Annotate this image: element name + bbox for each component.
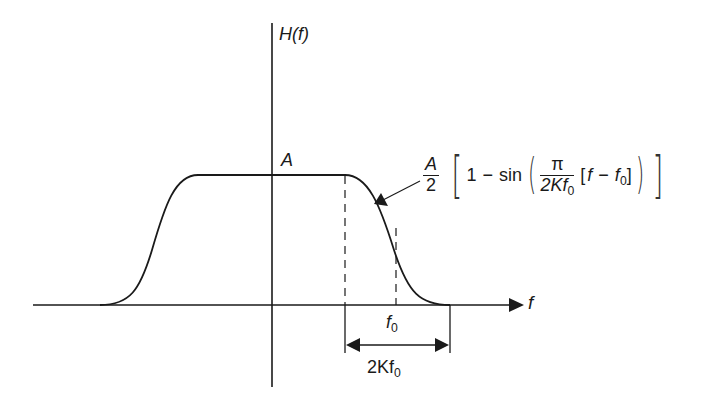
coef-denominator: 2 bbox=[423, 176, 439, 196]
formula-f0: f0 bbox=[615, 165, 627, 186]
formula-coefficient: A 2 bbox=[423, 155, 439, 196]
pi-numerator: π bbox=[540, 155, 574, 176]
formula-minus2: − bbox=[598, 165, 609, 186]
inner-bracket-open: [ bbox=[580, 165, 585, 186]
plateau-label-A: A bbox=[281, 150, 293, 171]
pi-denominator: 2Kf0 bbox=[540, 176, 574, 196]
paren-open: ( bbox=[528, 154, 536, 196]
spectrum-curve bbox=[100, 175, 450, 305]
formula-sin: sin bbox=[499, 165, 522, 186]
formula-one: 1 bbox=[467, 165, 477, 186]
outer-bracket-open: [ bbox=[451, 150, 462, 200]
bracket-right-arrow-icon bbox=[435, 338, 449, 352]
x-axis-arrow-icon bbox=[509, 298, 524, 312]
coef-numerator: A bbox=[423, 155, 439, 176]
spectrum-diagram bbox=[0, 0, 717, 403]
x-axis-label: f bbox=[528, 292, 533, 314]
rolloff-formula: A 2 [ 1 − sin ( π 2Kf0 [ f − f0 ] ) ] bbox=[423, 150, 668, 200]
formula-pi-fraction: π 2Kf0 bbox=[540, 155, 574, 196]
width-main: 2Kf bbox=[367, 357, 394, 377]
formula-minus: − bbox=[483, 165, 494, 186]
bracket-left-arrow-icon bbox=[346, 338, 360, 352]
f0-sub: 0 bbox=[391, 321, 398, 335]
f0-label: f0 bbox=[386, 312, 398, 333]
width-label: 2Kf0 bbox=[367, 357, 401, 378]
y-axis-label: H(f) bbox=[279, 24, 309, 45]
paren-close: ) bbox=[636, 154, 644, 196]
outer-bracket-close: ] bbox=[652, 150, 663, 200]
formula-f: f bbox=[587, 165, 592, 186]
formula-pointer-arrow-icon bbox=[374, 193, 388, 206]
width-sub: 0 bbox=[394, 366, 401, 380]
inner-bracket-close: ] bbox=[627, 165, 632, 186]
formula-pointer-line bbox=[383, 181, 420, 200]
